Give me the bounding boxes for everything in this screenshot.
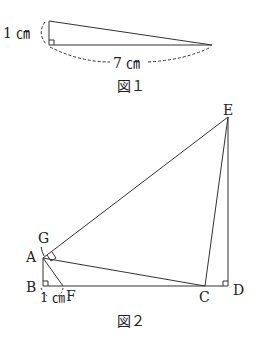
fig1-height-label: 1 ㎝: [3, 26, 30, 40]
point-B-label: B: [26, 280, 36, 294]
fig2-caption: 図２: [117, 314, 145, 328]
figure2-diagram: [41, 117, 228, 296]
point-E-label: E: [223, 103, 233, 117]
fig1-base-label: 7 ㎝: [113, 56, 140, 70]
fig1-caption: 図１: [117, 79, 145, 93]
point-C-label: C: [199, 290, 210, 304]
point-D-label: D: [233, 283, 244, 297]
point-G-label: G: [38, 231, 49, 245]
bf-length-label: 1 ㎝: [40, 291, 65, 304]
point-A-label: A: [26, 250, 36, 264]
point-F-label: F: [66, 289, 76, 303]
